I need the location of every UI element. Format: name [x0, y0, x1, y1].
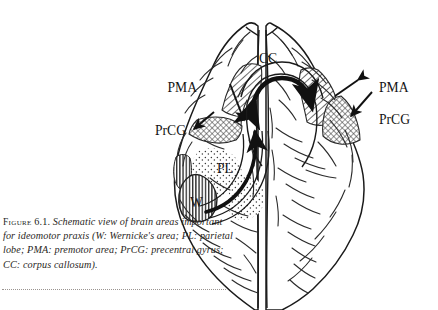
- label-prcg-right: PrCG: [379, 112, 410, 127]
- label-pma-right: PMA: [379, 80, 409, 95]
- label-w: W: [190, 195, 203, 210]
- caption-dotted-rule: [2, 289, 226, 291]
- label-pma-left: PMA: [168, 80, 198, 95]
- label-prcg-left: PrCG: [155, 123, 186, 138]
- figure-number: 6.1.: [34, 216, 50, 227]
- label-pl: PL: [217, 161, 233, 176]
- pma-right-pointer: [335, 80, 358, 96]
- label-cc: CC: [259, 51, 277, 66]
- figure-container: PMA PMA PrCG PrCG PL W CC Figure 6.1. Sc…: [0, 0, 438, 310]
- figure-caption: Figure 6.1. Schematic view of brain area…: [3, 215, 235, 272]
- figure-label: Figure: [3, 217, 32, 227]
- prcg-right-pointer: [351, 92, 372, 116]
